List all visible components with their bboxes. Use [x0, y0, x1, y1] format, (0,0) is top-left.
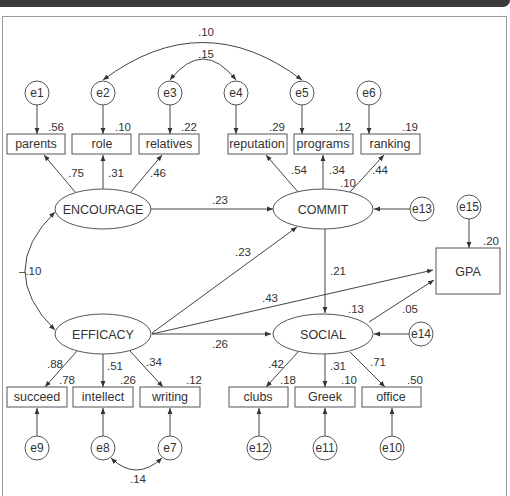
svg-text:e10: e10: [382, 441, 402, 455]
r2-office: .50: [407, 374, 423, 386]
loading-office-value: .71: [370, 356, 386, 368]
r2-reputation: .29: [269, 121, 285, 133]
svg-text:SOCIAL: SOCIAL: [300, 328, 346, 342]
svg-text:ranking: ranking: [370, 137, 411, 151]
svg-text:role: role: [92, 137, 113, 151]
svg-text:parents: parents: [15, 137, 57, 151]
r2-ranking: .19: [402, 121, 418, 133]
disturbance-e13: e13: [410, 197, 434, 221]
r2-relatives: .22: [181, 121, 197, 133]
svg-text:EFFICACY: EFFICACY: [72, 328, 134, 342]
indicator-parents: parents: [7, 134, 65, 154]
r2-role: .10: [115, 121, 131, 133]
error-e3: e3: [158, 81, 182, 105]
covariance-e8-e7-value: .14: [130, 473, 147, 485]
svg-text:e12: e12: [249, 441, 269, 455]
svg-text:e3: e3: [163, 86, 177, 100]
path-encourage-commit-value: .23: [212, 194, 228, 206]
svg-text:COMMIT: COMMIT: [298, 203, 349, 217]
path-commit-social-value: .21: [330, 265, 346, 277]
outcome-gpa: GPA: [436, 248, 500, 294]
svg-text:programs: programs: [297, 137, 350, 151]
path-efficacy-social-value: .26: [212, 338, 228, 350]
svg-text:e11: e11: [315, 441, 334, 455]
error-e2: e2: [91, 81, 115, 105]
indicator-intellect: intellect: [73, 387, 133, 407]
indicator-ranking: ranking: [361, 134, 420, 154]
svg-text:writing: writing: [151, 390, 188, 404]
r2-parents: .56: [48, 121, 64, 133]
latent-encourage: ENCOURAGE: [55, 189, 151, 229]
svg-text:GPA: GPA: [455, 265, 481, 279]
error-e1: e1: [25, 81, 49, 105]
svg-text:Greek: Greek: [308, 390, 343, 404]
disturbance-e15: e15: [457, 195, 481, 219]
error-e8: e8: [91, 436, 115, 460]
svg-text:relatives: relatives: [146, 137, 193, 151]
svg-text:reputation: reputation: [229, 137, 285, 151]
latent-efficacy: EFFICACY: [55, 314, 151, 354]
svg-text:intellect: intellect: [82, 390, 125, 404]
r2-clubs: .18: [280, 374, 296, 386]
path-social-gpa-value: .05: [402, 303, 418, 315]
svg-text:e9: e9: [30, 441, 44, 455]
svg-text:e8: e8: [96, 441, 110, 455]
svg-text:e7: e7: [163, 441, 177, 455]
indicator-reputation: reputation: [228, 134, 287, 154]
svg-text:office: office: [376, 390, 406, 404]
loading-succeed-value: .88: [47, 358, 63, 370]
svg-text:e4: e4: [229, 86, 243, 100]
svg-text:succeed: succeed: [14, 390, 61, 404]
svg-text:e2: e2: [96, 86, 110, 100]
svg-text:e5: e5: [295, 86, 309, 100]
r2-gpa: .20: [483, 235, 499, 247]
svg-text:e6: e6: [362, 86, 376, 100]
covariance-encourage-efficacy-value: –.10: [19, 265, 41, 277]
r2-commit: .10: [340, 177, 356, 189]
error-e6: e6: [357, 81, 381, 105]
error-e7: e7: [158, 436, 182, 460]
error-e9: e9: [25, 436, 49, 460]
covariance-e2-e5-value: .10: [198, 26, 214, 38]
loading-writing-value: .34: [146, 356, 163, 368]
indicator-clubs: clubs: [229, 387, 288, 407]
latent-commit: COMMIT: [273, 189, 373, 229]
svg-text:e13: e13: [412, 202, 432, 216]
r2-greek: .10: [341, 374, 357, 386]
loading-greek-value: .31: [330, 360, 346, 372]
svg-text:e15: e15: [459, 200, 479, 214]
loading-parents-value: .75: [68, 167, 84, 179]
error-e10: e10: [380, 436, 404, 460]
covariance-e3-e4: [170, 59, 236, 80]
svg-text:e14: e14: [411, 327, 431, 341]
loading-intellect-value: .51: [107, 360, 123, 372]
error-e12: e12: [247, 436, 271, 460]
error-e5: e5: [290, 81, 314, 105]
r2-programs: .12: [335, 121, 351, 133]
loading-clubs-value: .42: [268, 358, 284, 370]
loading-role-value: .31: [108, 167, 124, 179]
loading-relatives-value: .46: [150, 167, 166, 179]
latent-social: SOCIAL: [273, 314, 373, 354]
loading-ranking-value: .44: [372, 164, 389, 176]
r2-intellect: .26: [120, 374, 136, 386]
indicator-role: role: [72, 134, 131, 154]
indicator-relatives: relatives: [139, 134, 199, 154]
loading-programs-value: .34: [329, 164, 346, 176]
r2-writing: .12: [186, 374, 202, 386]
covariance-e3-e4-value: .15: [198, 48, 214, 60]
indicator-succeed: succeed: [7, 387, 67, 407]
r2-succeed: .78: [59, 374, 75, 386]
svg-text:clubs: clubs: [243, 390, 272, 404]
disturbance-e14: e14: [409, 322, 433, 346]
indicator-office: office: [362, 387, 421, 407]
loading-reputation-value: .54: [291, 164, 308, 176]
path-efficacy-commit-value: .23: [235, 246, 251, 258]
indicator-programs: programs: [294, 134, 353, 154]
error-e11: e11: [313, 436, 337, 460]
r2-social: .13: [348, 303, 364, 315]
indicator-greek: Greek: [295, 387, 355, 407]
covariance-e8-e7: [111, 458, 162, 470]
path-social-gpa: [369, 280, 434, 322]
